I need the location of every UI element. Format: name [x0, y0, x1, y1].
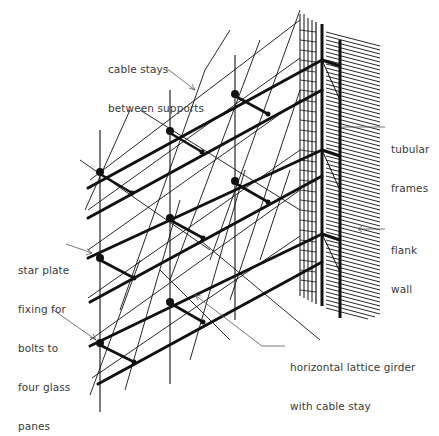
label-line: horizontal lattice girder — [290, 361, 415, 374]
flank-wall-hatching — [326, 32, 380, 319]
leader-lattice-girder — [195, 295, 285, 346]
label-line: flank — [391, 244, 417, 257]
label-line: with cable stay — [290, 400, 415, 413]
label-flank-wall: flank wall — [391, 218, 417, 322]
label-line: bolts to — [18, 342, 70, 355]
label-line: frames — [391, 182, 429, 195]
label-line: star plate — [18, 264, 70, 277]
label-line: cable stays — [108, 63, 204, 76]
label-lattice-girder: horizontal lattice girder with cable sta… — [290, 335, 415, 436]
label-line: four glass — [18, 381, 70, 394]
label-cable-stays: cable stays between supports — [108, 37, 204, 141]
label-line: panes — [18, 420, 70, 433]
label-line: wall — [391, 283, 417, 296]
label-line: fixing for — [18, 303, 70, 316]
label-line: tubular — [391, 143, 429, 156]
label-line: between supports — [108, 102, 204, 115]
label-tubular-frames: tubular frames — [391, 117, 429, 221]
label-star-plate: star plate fixing for bolts to four glas… — [18, 238, 70, 436]
